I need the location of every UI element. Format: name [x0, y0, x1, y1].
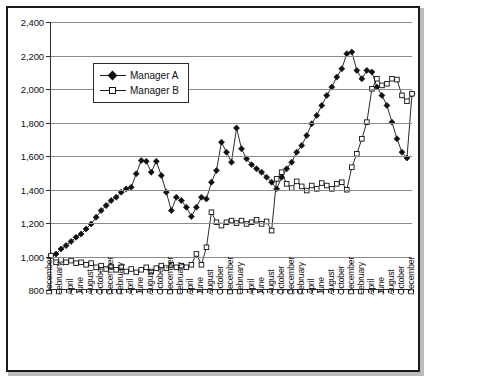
data-point-marker [89, 261, 94, 266]
x-axis-label: December [286, 257, 296, 295]
data-point-marker [129, 267, 134, 272]
data-point-marker [294, 179, 299, 184]
x-axis-label: October [155, 266, 165, 295]
x-axis-label: February [235, 262, 245, 295]
gridline [51, 22, 412, 23]
data-point-marker [304, 132, 310, 138]
x-axis-label: December [346, 257, 356, 295]
data-point-marker [193, 204, 199, 210]
y-axis-label: 2,400 [21, 17, 44, 28]
data-point-marker [324, 183, 329, 188]
data-point-marker [173, 194, 179, 200]
y-axis-label: 2,200 [21, 50, 44, 61]
data-point-marker [359, 76, 365, 82]
y-axis-tick [46, 22, 51, 23]
data-point-marker [139, 268, 144, 273]
legend-label-manager-b: Manager B [130, 85, 179, 96]
x-axis-label: December [105, 257, 115, 295]
data-point-marker [74, 261, 79, 266]
data-point-marker [229, 159, 235, 165]
x-axis-label: August [386, 269, 396, 295]
y-axis-label: 2,000 [21, 84, 44, 95]
data-point-marker [354, 67, 360, 73]
data-point-marker [385, 81, 390, 86]
y-axis-label: 1,800 [21, 117, 44, 128]
legend-item-manager-a: Manager A [100, 68, 179, 83]
y-axis-tick [46, 190, 51, 191]
x-axis-label: April [65, 279, 75, 295]
x-axis-label: October [215, 266, 225, 295]
series-line [51, 79, 412, 273]
x-axis-label: December [225, 257, 235, 295]
x-axis-label: June [195, 277, 205, 295]
data-point-marker [390, 76, 395, 81]
data-point-marker [64, 260, 69, 265]
series-manager-b [49, 76, 415, 274]
data-point-marker [239, 146, 245, 152]
data-point-marker [234, 125, 240, 131]
data-point-marker [138, 158, 144, 164]
gridline [51, 223, 412, 224]
x-axis-label: June [256, 277, 266, 295]
chart-frame: 8001,0001,2001,4001,6001,8002,0002,2002,… [6, 6, 420, 372]
y-axis-tick [46, 223, 51, 224]
y-axis-label: 1,200 [21, 218, 44, 229]
data-point-marker [299, 184, 304, 189]
legend-item-manager-b: Manager B [100, 83, 179, 98]
data-point-marker [69, 258, 74, 263]
x-axis-label: February [54, 262, 64, 295]
gridline [51, 156, 412, 157]
x-axis-label: June [75, 277, 85, 295]
data-point-marker [319, 102, 325, 108]
data-point-marker [209, 210, 214, 215]
data-point-marker [350, 165, 355, 170]
data-point-marker [143, 158, 149, 164]
data-point-marker [334, 182, 339, 187]
data-point-marker [380, 83, 385, 88]
data-point-marker [79, 260, 84, 265]
y-axis-label: 1,000 [21, 251, 44, 262]
data-point-marker [314, 112, 320, 118]
data-point-marker [279, 170, 284, 175]
data-point-marker [148, 169, 154, 175]
y-axis-tick [46, 56, 51, 57]
data-point-marker [189, 263, 194, 268]
y-axis-tick [46, 89, 51, 90]
data-point-marker [375, 76, 380, 81]
data-point-marker [213, 168, 219, 174]
x-axis-label: August [326, 269, 336, 295]
data-point-marker [395, 77, 400, 82]
x-axis-label: February [175, 262, 185, 295]
x-axis-label: August [266, 269, 276, 295]
data-point-marker [400, 93, 405, 98]
y-axis-label: 800 [28, 285, 44, 296]
x-axis-label: June [135, 277, 145, 295]
x-axis-label: August [85, 269, 95, 295]
y-axis-tick [46, 123, 51, 124]
x-axis-label: June [316, 277, 326, 295]
x-axis-label: April [125, 279, 135, 295]
data-point-marker [208, 179, 214, 185]
x-axis-label: April [366, 279, 376, 295]
x-axis-label: February [115, 262, 125, 295]
x-axis-label: December [44, 257, 54, 295]
y-axis-label: 1,600 [21, 151, 44, 162]
data-point-marker [309, 183, 314, 188]
x-axis-label: April [306, 279, 316, 295]
x-axis-label: April [185, 279, 195, 295]
legend-label-manager-a: Manager A [130, 70, 178, 81]
gridline [51, 190, 412, 191]
data-point-marker [153, 158, 159, 164]
open-square-icon [100, 85, 126, 96]
x-axis-label: October [336, 266, 346, 295]
data-point-marker [188, 213, 194, 219]
x-axis-label: August [205, 269, 215, 295]
data-point-marker [410, 91, 415, 96]
x-axis-label: June [376, 277, 386, 295]
figure-caption [10, 378, 310, 387]
x-axis-label: October [276, 266, 286, 295]
x-axis-label: February [296, 262, 306, 295]
x-axis-label: December [406, 257, 416, 295]
y-axis-label: 1,400 [21, 184, 44, 195]
data-point-marker [284, 182, 289, 187]
